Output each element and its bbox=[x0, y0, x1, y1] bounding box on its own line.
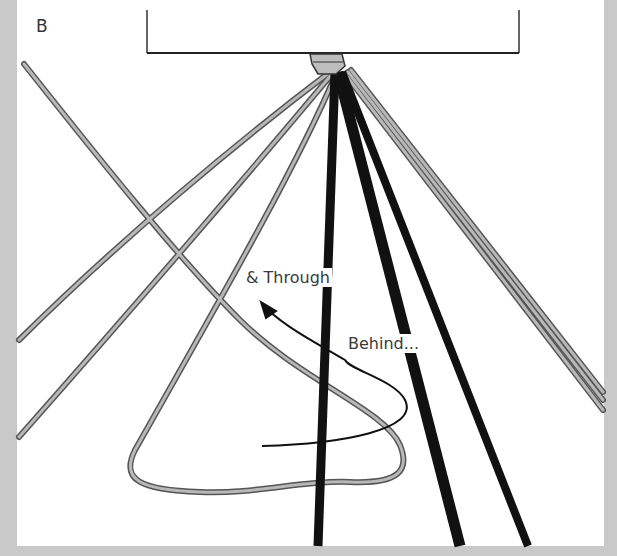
step-label: B bbox=[36, 16, 48, 36]
behind-annotation: Behind... bbox=[346, 334, 421, 353]
dowel-bar bbox=[147, 10, 519, 53]
gathering-knot bbox=[310, 54, 345, 74]
through-annotation: & Through bbox=[244, 268, 332, 287]
dark-cords bbox=[318, 72, 528, 546]
